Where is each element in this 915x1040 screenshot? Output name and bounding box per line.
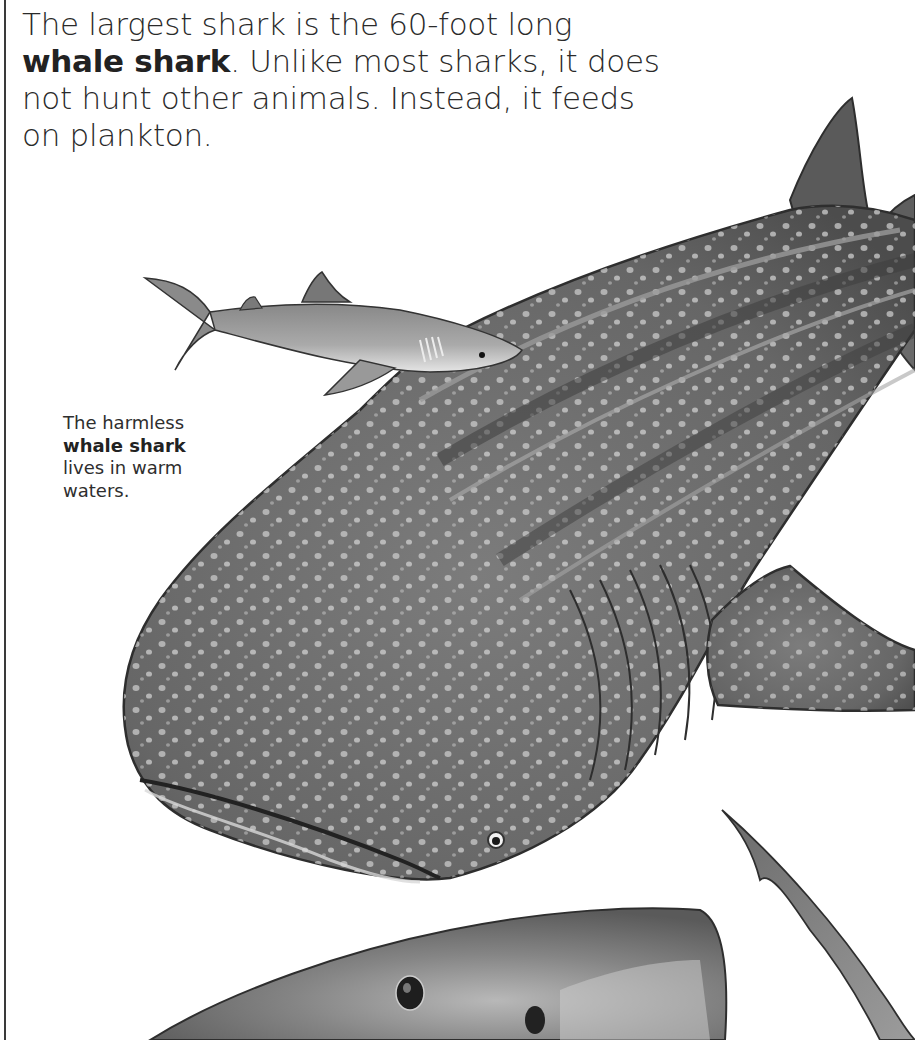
great-white-shark-head	[150, 908, 726, 1040]
shark-fin	[722, 810, 915, 1040]
main-paragraph: The largest shark is the 60-foot long wh…	[22, 6, 762, 154]
bold-term-whale-shark: whale shark	[22, 43, 230, 79]
main-line-4: on plankton.	[22, 117, 762, 154]
main-line-3: not hunt other animals. Instead, it feed…	[22, 80, 762, 117]
caption-bold-term: whale shark	[63, 435, 186, 456]
shark-illustration	[0, 0, 915, 1040]
main-line-1: The largest shark is the 60-foot long	[22, 6, 762, 43]
illustration-caption: The harmless whale shark lives in warm w…	[63, 412, 253, 502]
main-line-2: whale shark. Unlike most sharks, it does	[22, 43, 762, 80]
